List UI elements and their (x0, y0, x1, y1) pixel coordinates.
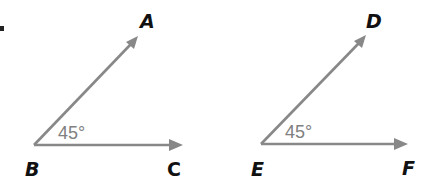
arrowhead-f-icon (394, 138, 408, 150)
angle-measure: 45° (285, 122, 312, 142)
angle-abc: 45° B A C (25, 10, 183, 180)
list-marker (0, 26, 4, 31)
angle-diagram: 45° B A C 45° E D F (0, 0, 426, 187)
arrowhead-c-icon (169, 139, 183, 151)
angle-measure: 45° (58, 123, 85, 143)
point-label-f: F (402, 157, 415, 179)
point-label-c: C (167, 158, 181, 180)
angle-def: 45° E D F (251, 10, 415, 180)
point-label-e: E (251, 158, 264, 180)
point-label-a: A (138, 10, 155, 32)
point-label-d: D (366, 10, 382, 32)
point-label-b: B (25, 158, 39, 180)
